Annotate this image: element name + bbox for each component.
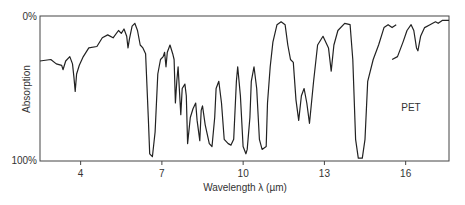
spectrum-lines [40,20,449,158]
x-tick-label: 13 [319,168,331,179]
x-tick-label: 7 [159,168,165,179]
x-tick-label: 4 [78,168,84,179]
spectrum-line-2 [392,20,449,59]
x-axis-title: Wavelength λ (µm) [203,182,287,193]
spectrum-line-1 [40,22,396,158]
x-axis-ticks: 47101316 [78,161,412,179]
y-axis-title: Absorption [21,65,32,113]
pet-annotation: PET [401,102,420,113]
x-tick-label: 16 [400,168,412,179]
x-tick-label: 10 [238,168,250,179]
plot-frame [40,16,449,161]
ir-absorption-chart: 47101316 0% 100% Absorption Wavelength λ… [0,0,465,205]
plot-area: 47101316 [40,16,449,179]
y-tick-label-top: 0% [23,11,38,22]
y-tick-label-bottom: 100% [11,155,37,166]
